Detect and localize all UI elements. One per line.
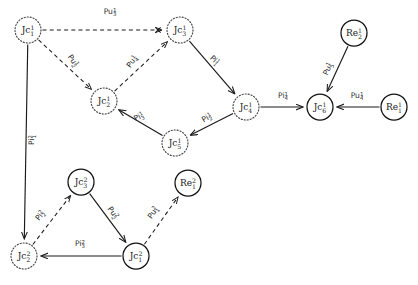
edge-label: Pi41	[278, 91, 289, 102]
node-label: Jc51	[168, 137, 182, 149]
node-label: Jc61	[313, 101, 327, 113]
edge-label: Pu41	[351, 91, 364, 102]
graph-edge	[115, 42, 168, 91]
edge-labels-layer: Pu31Pu21Pu41Pi11Pi21Pi31Pi41Pu51Pu41Pi12…	[27, 7, 364, 250]
graph-edge	[189, 41, 234, 94]
edge-label: Pu41	[124, 53, 140, 70]
graph-edge	[39, 40, 92, 89]
edge-label: Pu51	[321, 61, 336, 77]
edge-label: Pi21	[200, 111, 214, 125]
edge-label: Pi12	[27, 135, 38, 145]
node-label: Jc32	[74, 176, 88, 188]
node-label: Re12	[180, 177, 196, 189]
node-label: Jc11	[21, 24, 35, 36]
node-label: Jc21	[97, 95, 111, 107]
graph-edge	[90, 194, 126, 242]
node-label: Jc31	[173, 24, 187, 36]
node-label: Re21	[346, 27, 362, 39]
edge-label: Pi11	[207, 53, 222, 68]
node-label: Jc41	[239, 101, 253, 113]
edge-label: Pu31	[104, 7, 117, 18]
node-label: Re11	[386, 101, 402, 113]
graph-svg: Pu31Pu21Pu41Pi11Pi21Pi31Pi41Pu51Pu41Pi12…	[0, 0, 418, 285]
edge-label: Pi22	[33, 208, 47, 222]
node-label: Jc22	[17, 250, 31, 262]
node-label: Jc12	[129, 250, 143, 262]
edge-label: Pu22	[105, 204, 121, 221]
edge-label: Pi32	[75, 239, 85, 250]
graph-edge	[144, 197, 177, 244]
edge-label: Pu12	[145, 205, 161, 221]
diagram-canvas: Pu31Pu21Pu41Pi11Pi21Pi31Pi41Pu51Pu41Pi12…	[0, 0, 418, 285]
